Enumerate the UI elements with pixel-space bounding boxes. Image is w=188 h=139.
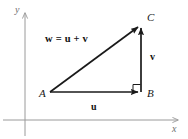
x-axis-label: x (172, 124, 176, 134)
figure-canvas (0, 0, 188, 139)
equation-lhs: w (45, 33, 53, 44)
vector-label-v: v (150, 52, 155, 62)
y-axis-label: y (15, 5, 19, 15)
point-label-a: A (39, 88, 46, 99)
equation-term2: v (83, 33, 88, 44)
point-label-c: C (147, 12, 154, 23)
right-angle-marker (133, 85, 141, 93)
vector-label-u: u (91, 102, 97, 112)
point-label-b: B (147, 88, 154, 99)
axis-group (3, 13, 178, 136)
vector-addition-figure: y x A B C u v w = u + v (0, 0, 188, 139)
equation-label: w = u + v (45, 34, 88, 45)
